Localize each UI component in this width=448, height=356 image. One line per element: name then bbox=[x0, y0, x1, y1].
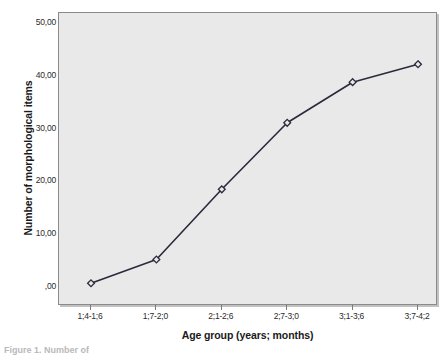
chart-figure: Number of morphological items ,0010,0020… bbox=[0, 0, 448, 356]
y-tick-label: 30,00 bbox=[12, 124, 56, 133]
plot-area bbox=[58, 12, 437, 305]
x-tick-mark bbox=[352, 305, 353, 310]
x-axis-title: Age group (years; months) bbox=[58, 329, 437, 341]
x-tick-mark bbox=[221, 305, 222, 310]
x-tick-mark bbox=[286, 305, 287, 310]
x-tick-label: 3;1-3;6 bbox=[317, 311, 387, 321]
y-tick-label: 50,00 bbox=[12, 18, 56, 27]
y-tick-label: 40,00 bbox=[12, 71, 56, 80]
data-point-marker bbox=[88, 280, 95, 287]
y-tick-label: 10,00 bbox=[12, 229, 56, 238]
x-tick-mark bbox=[417, 305, 418, 310]
data-series-line bbox=[91, 64, 418, 283]
y-axis-ticks: ,0010,0020,0030,0040,0050,00 bbox=[8, 0, 56, 356]
x-axis-ticks: 1;4-1;61;7-2;02;1-2;62;7-3;03;1-3;63;7-4… bbox=[58, 305, 437, 331]
x-tick-label: 3;7-4;2 bbox=[382, 311, 448, 321]
data-point-markers bbox=[88, 61, 422, 287]
y-tick-label: ,00 bbox=[12, 282, 56, 291]
data-point-marker bbox=[415, 61, 422, 68]
x-tick-label: 1;4-1;6 bbox=[55, 311, 125, 321]
x-tick-mark bbox=[155, 305, 156, 310]
x-tick-label: 2;7-3;0 bbox=[251, 311, 321, 321]
line-chart-svg bbox=[59, 13, 438, 306]
x-tick-label: 1;7-2;0 bbox=[120, 311, 190, 321]
figure-caption: Figure 1. Number of bbox=[4, 345, 89, 356]
x-tick-mark bbox=[90, 305, 91, 310]
x-tick-label: 2;1-2;6 bbox=[186, 311, 256, 321]
y-tick-label: 20,00 bbox=[12, 176, 56, 185]
